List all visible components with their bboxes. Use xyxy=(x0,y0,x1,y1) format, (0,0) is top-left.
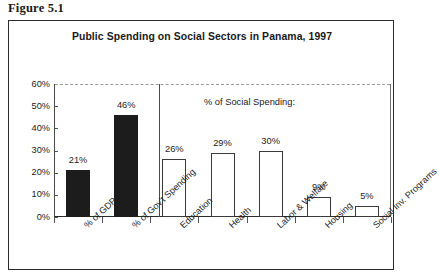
y-axis-tick-label: 50% xyxy=(8,102,50,111)
y-axis-tick-label: 10% xyxy=(8,190,50,199)
bar xyxy=(355,206,379,217)
bar xyxy=(259,151,283,218)
group-annotation: % of Social Spending: xyxy=(204,97,295,107)
bar-value-label: 46% xyxy=(106,100,146,110)
y-axis-tick-label: 60% xyxy=(8,80,50,89)
bar-value-label: 29% xyxy=(203,138,243,148)
y-axis-tick-label: 40% xyxy=(8,124,50,133)
chart-title: Public Spending on Social Sectors in Pan… xyxy=(9,31,395,42)
bar-value-label: 30% xyxy=(251,136,291,146)
bar-value-label: 5% xyxy=(347,191,387,201)
y-axis-tick-label: 30% xyxy=(8,146,50,155)
bar-value-label: 26% xyxy=(154,144,194,154)
y-axis: 0%10%20%30%40%50%60% xyxy=(9,79,54,224)
y-axis-tick-label: 20% xyxy=(8,168,50,177)
bar xyxy=(211,153,235,217)
bar-series: % of Social Spending: 21%46%26%29%30%9%5… xyxy=(54,84,391,217)
chart-frame: Public Spending on Social Sectors in Pan… xyxy=(8,20,394,270)
bar xyxy=(66,170,90,217)
bar-value-label: 21% xyxy=(58,155,98,165)
x-axis-labels: % of GDP% of Gov't SpendingEducationHeal… xyxy=(9,217,418,273)
figure-caption: Figure 5.1 xyxy=(8,1,64,16)
